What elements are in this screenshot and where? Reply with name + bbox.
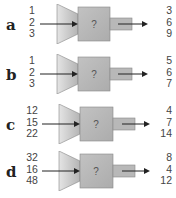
row-label: d [6,163,17,181]
output-values: 8 4 12 [154,152,172,187]
output-values: 3 6 9 [154,5,172,40]
output-value: 3 [154,5,172,17]
machine-row-a: a 1 2 3 ? 3 6 9 [0,4,176,52]
unknown-rule-symbol: ? [93,119,99,130]
function-machine-icon: ? [38,54,154,94]
output-values: 5 6 7 [154,55,172,90]
row-label: b [6,66,17,84]
function-machine-icon: ? [38,151,154,191]
unknown-rule-symbol: ? [91,19,97,30]
unknown-rule-symbol: ? [93,166,99,177]
output-value: 14 [154,128,172,140]
output-values: 4 7 14 [154,105,172,140]
machine-row-b: b 1 2 3 ? 5 6 7 [0,54,176,102]
output-value: 8 [154,152,172,164]
machine-row-d: d 32 16 48 ? 8 4 12 [0,151,176,198]
row-label: a [6,16,16,34]
unknown-rule-symbol: ? [91,69,97,80]
output-value: 12 [154,175,172,187]
output-value: 5 [154,55,172,67]
output-value: 9 [154,28,172,40]
function-machine-icon: ? [38,104,154,144]
output-value: 4 [154,105,172,117]
output-value: 7 [154,78,172,90]
row-label: c [6,116,15,134]
machine-row-c: c 12 15 22 ? 4 7 14 [0,104,176,152]
function-machine-icon: ? [38,4,154,44]
